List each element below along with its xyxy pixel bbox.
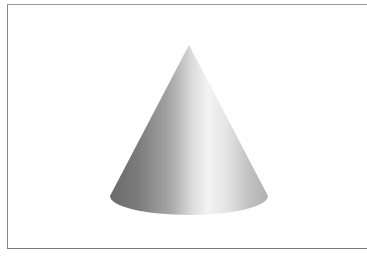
cone-body	[110, 45, 268, 215]
